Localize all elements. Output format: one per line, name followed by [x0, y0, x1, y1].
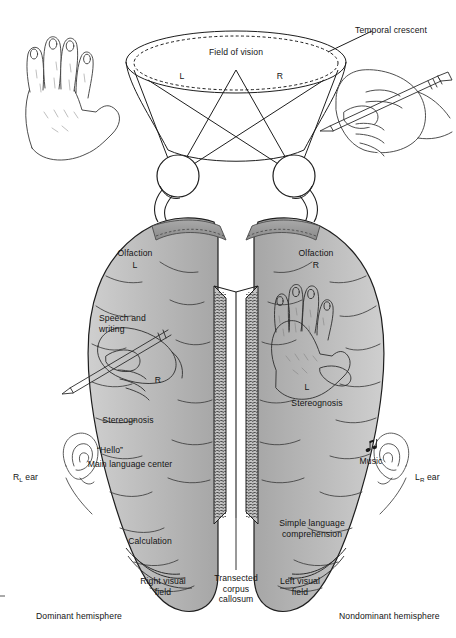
right-eyeball: [273, 155, 315, 197]
right-hand-side-label: L: [305, 382, 310, 393]
cone-left-edge: [126, 62, 168, 150]
pencil-eraser-end: [438, 72, 452, 81]
dominant-hemisphere-label: Dominant hemisphere: [36, 611, 122, 622]
left-hand-illustration: [26, 37, 120, 160]
pencil-tip: [320, 126, 333, 131]
right-visual-field-label: Right visual field: [140, 576, 186, 597]
left-ear-label-tail: ear: [25, 472, 38, 482]
left-olfaction-label: Olfaction: [118, 248, 153, 259]
left-hand-nail-3: [66, 41, 74, 51]
right-ear-label: LR ear: [415, 472, 440, 486]
right-ear-label-subscript: R: [420, 476, 425, 483]
anatomical-illustration: [0, 0, 456, 638]
field-of-vision-left-label: L: [180, 71, 185, 82]
eyes-and-optic-nerves-group: [155, 155, 318, 224]
left-hand-nail-2: [49, 39, 57, 49]
right-ear-antihelix: [380, 444, 400, 471]
right-corpus-callosum-hatching: [246, 292, 258, 518]
right-olfaction-label: Olfaction: [299, 248, 334, 259]
figure-canvas: Field of vision L R Temporal crescent Ol…: [0, 0, 456, 638]
left-olfaction-side-label: L: [133, 260, 138, 271]
calculation-label: Calculation: [128, 536, 172, 547]
writing-pencil-tip: [62, 388, 73, 394]
right-hand-wrist-2: [418, 132, 452, 139]
left-optic-nerve: [155, 190, 162, 222]
left-hemisphere-ear: [63, 433, 98, 514]
hello-label: “Hello”: [97, 445, 123, 456]
temporal-crescent-dashed: [134, 36, 338, 90]
left-hand-nail-1: [30, 49, 37, 59]
nondominant-hemisphere-label: Nondominant hemisphere: [339, 611, 440, 622]
right-ear-temple-line: [380, 478, 406, 514]
right-hemisphere-brain: [246, 218, 384, 612]
left-ear-temple-line: [66, 478, 92, 514]
right-olfaction-side-label: R: [313, 260, 319, 271]
left-hand-side-label: R: [155, 375, 161, 386]
left-stereognosis-label: Stereognosis: [102, 415, 153, 426]
main-language-center-label: Main language center: [88, 459, 173, 470]
speech-and-writing-label: Speech and writing: [99, 313, 146, 334]
right-ear-label-tail: ear: [427, 472, 440, 482]
right-optic-nerve: [310, 190, 317, 222]
field-of-vision-right-label: R: [277, 71, 283, 82]
left-corpus-callosum-hatching: [214, 292, 226, 518]
right-ear-concha: [383, 453, 392, 462]
field-of-vision-label: Field of vision: [209, 47, 263, 58]
left-ear-label-subscript: L: [19, 476, 23, 483]
left-hand-nail-4: [84, 54, 91, 64]
temporal-crescent-label: Temporal crescent: [355, 25, 427, 36]
music-label: Music: [360, 456, 383, 467]
left-ear-label: RL ear: [13, 472, 38, 486]
simple-language-comprehension-label: Simple language comprehension: [279, 518, 345, 539]
right-stereognosis-label: Stereognosis: [291, 398, 342, 409]
midline-notch-top: [214, 286, 258, 292]
left-visual-field-label: Left visual field: [280, 576, 320, 597]
transected-corpus-callosum-label: Transected corpus callosum: [214, 573, 258, 605]
left-eyeball: [157, 155, 199, 197]
field-of-vision-ellipse: [126, 31, 346, 93]
